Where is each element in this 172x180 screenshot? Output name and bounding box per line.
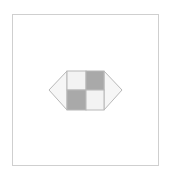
hexagon-checker-diagram bbox=[0, 0, 172, 180]
cell-top-right bbox=[86, 71, 104, 90]
left-cap-triangle bbox=[49, 71, 67, 110]
cell-bottom-right bbox=[86, 90, 104, 110]
right-cap-triangle bbox=[104, 71, 122, 110]
cell-bottom-left bbox=[67, 90, 86, 110]
cell-top-left bbox=[67, 71, 86, 90]
